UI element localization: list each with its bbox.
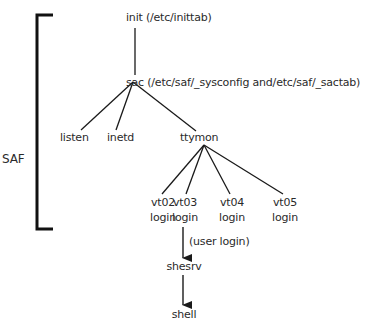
edge-label-user-login: (user login) <box>189 235 249 248</box>
node-vt04: vt04 login <box>219 196 245 224</box>
vt03-name: vt03 <box>172 196 198 209</box>
vt05-name: vt05 <box>272 196 298 209</box>
saf-label: SAF <box>2 153 24 166</box>
node-vt05: vt05 login <box>272 196 298 224</box>
saf-bracket <box>37 15 53 229</box>
vt05-login: login <box>272 211 298 224</box>
node-init: init (/etc/inittab) <box>126 11 212 24</box>
node-shesrv: shesrv <box>166 260 201 273</box>
vt03-login: login <box>172 211 198 224</box>
node-sac: sac (/etc/saf/_sysconfig and/etc/saf/_sa… <box>126 76 360 89</box>
diagram-lines <box>0 0 372 334</box>
vt04-name: vt04 <box>219 196 245 209</box>
node-ttymon: ttymon <box>180 131 218 144</box>
node-listen: listen <box>60 131 89 144</box>
node-shell: shell <box>172 308 197 321</box>
node-vt03: vt03 login <box>172 196 198 224</box>
node-inetd: inetd <box>107 131 134 144</box>
vt04-login: login <box>219 211 245 224</box>
